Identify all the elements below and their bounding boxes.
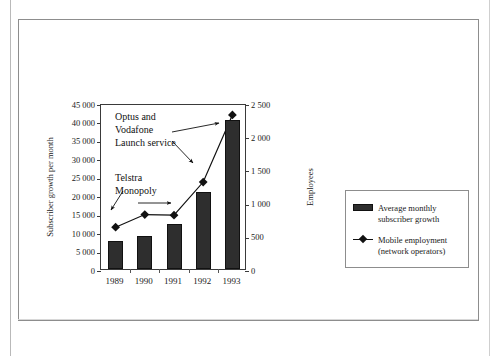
y-axis-left-tick-label: 35 000 (72, 137, 95, 146)
legend-line-diamond-icon (353, 235, 373, 245)
y-axis-left-tick-label: 30 000 (72, 156, 95, 165)
annotation-arrows (19, 20, 478, 320)
y-axis-left-tick-label: 40 000 (72, 119, 95, 128)
bar-1991 (167, 224, 182, 269)
annotation-line: Telstra (115, 171, 157, 184)
legend-item-label: Mobile employment (network operators) (378, 235, 468, 257)
y-axis-left-tick (97, 271, 101, 272)
annotation-line: Monopoly (115, 184, 157, 197)
page-edge-left-rule (10, 0, 11, 356)
y-axis-right-tick-label: 1 500 (251, 167, 270, 176)
line-marker-1993 (228, 111, 237, 120)
y-axis-left-tick (97, 234, 101, 235)
y-axis-right-tick (245, 171, 249, 172)
y-axis-left-tick-label: 15 000 (72, 211, 95, 220)
x-axis-tick (189, 269, 190, 273)
legend-item-bar-series[interactable]: Average monthly subscriber growth (353, 203, 468, 225)
figure-frame: Subscriber growth per month Employees 05… (18, 19, 479, 321)
line-marker-1990 (140, 210, 149, 219)
y-axis-right-tick-label: 500 (251, 233, 264, 242)
y-axis-left-tick (97, 123, 101, 124)
y-axis-right-tick-label: 1 000 (251, 200, 270, 209)
x-axis-label-1993: 1993 (213, 276, 249, 286)
y-axis-left-tick-label: 20 000 (72, 193, 95, 202)
y-axis-right-tick (245, 271, 249, 272)
annotation-telstra-monopoly: Telstra Monopoly (115, 171, 157, 197)
y-axis-right-tick (245, 138, 249, 139)
x-axis-tick (159, 269, 160, 273)
y-axis-left-tick (97, 105, 101, 106)
y-axis-left-tick (97, 253, 101, 254)
y-axis-left-tick-label: 10 000 (72, 230, 95, 239)
x-axis-tick (130, 269, 131, 273)
y-axis-right-title: Employees (305, 168, 315, 206)
y-axis-left-tick-label: 25 000 (72, 174, 95, 183)
figure-frame-shadow (18, 319, 478, 320)
annotation-line: Vodafone (115, 123, 176, 136)
annotation-line: Launch service (115, 136, 176, 149)
y-axis-left-tick (97, 179, 101, 180)
bar-1990 (137, 236, 152, 269)
y-axis-left-tick-label: 45 000 (72, 101, 95, 110)
line-marker-1989 (111, 223, 120, 232)
page-edge-right-rule (489, 0, 490, 356)
y-axis-left-tick (97, 142, 101, 143)
y-axis-right-tick (245, 205, 249, 206)
y-axis-right-tick (245, 105, 249, 106)
y-axis-left-tick (97, 216, 101, 217)
y-axis-left-tick (97, 160, 101, 161)
y-axis-left-tick (97, 197, 101, 198)
page-canvas: Subscriber growth per month Employees 05… (0, 0, 496, 356)
y-axis-right-tick-label: 0 (251, 267, 255, 276)
legend-bar-swatch-icon (353, 203, 373, 213)
bar-1989 (108, 241, 123, 269)
legend-item-line-series[interactable]: Mobile employment (network operators) (353, 235, 468, 257)
legend-item-label: Average monthly subscriber growth (378, 203, 468, 225)
y-axis-left-title: Subscriber growth per month (45, 137, 55, 236)
y-axis-right-tick-label: 2 500 (251, 101, 270, 110)
x-axis-tick (218, 269, 219, 273)
y-axis-right-tick (245, 238, 249, 239)
y-axis-right-tick-label: 2 000 (251, 134, 270, 143)
y-axis-left-tick-label: 0 (91, 267, 95, 276)
chart-legend: Average monthly subscriber growth Mobile… (345, 190, 469, 268)
y-axis-left-tick-label: 5 000 (76, 248, 95, 257)
chart-area: Subscriber growth per month Employees 05… (19, 20, 478, 320)
annotation-line: Optus and (115, 110, 176, 123)
bar-1992 (196, 192, 211, 269)
bar-1993 (225, 120, 240, 269)
annotation-optus-vodafone: Optus and Vodafone Launch service (115, 110, 176, 149)
